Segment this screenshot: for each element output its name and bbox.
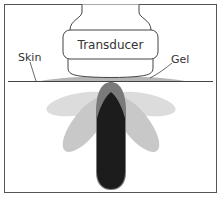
transducer-label: Transducer <box>77 38 144 52</box>
skin-label: Skin <box>18 51 41 64</box>
gel-label: Gel <box>171 53 189 66</box>
main-lobe <box>96 82 126 190</box>
ultrasound-beam-diagram: Transducer Skin Gel <box>0 0 220 197</box>
